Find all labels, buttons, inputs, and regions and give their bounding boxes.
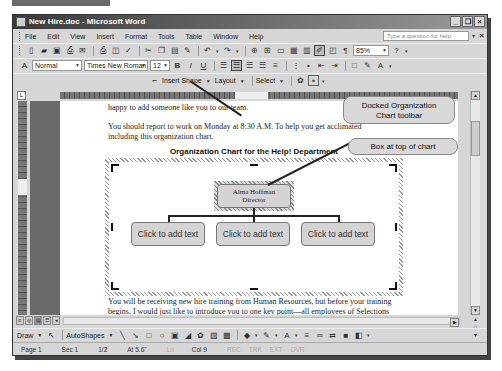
crop-handle[interactable] <box>389 282 397 290</box>
org-box-subordinate[interactable]: Click to add text <box>301 222 375 246</box>
rectangle-icon[interactable]: □ <box>143 330 154 341</box>
format-painter-icon[interactable]: ✎ <box>182 45 193 56</box>
redo-icon[interactable]: ↷ <box>222 45 233 56</box>
toolbar-options-icon[interactable]: ▾ <box>388 60 393 71</box>
toolbar-options-icon[interactable]: ▾ <box>404 45 409 56</box>
document-map-icon[interactable]: ◰ <box>327 45 338 56</box>
picture-icon[interactable]: ▩ <box>221 330 232 341</box>
scroll-up-button[interactable]: ▲ <box>471 91 480 100</box>
chevron-down-icon[interactable]: ▾ <box>294 330 299 341</box>
menu-help[interactable]: Help <box>249 33 263 40</box>
reading-view-button[interactable]: ◂ <box>52 316 60 325</box>
dash-style-icon[interactable]: ═ <box>314 330 325 341</box>
menu-tools[interactable]: Tools <box>158 33 174 40</box>
org-chart-canvas[interactable]: Alma Hoffman Director Click to add text … <box>105 158 403 296</box>
bold-icon[interactable]: B <box>172 60 183 71</box>
clip-art-icon[interactable]: ▨ <box>208 330 219 341</box>
arrow-style-icon[interactable]: ⇄ <box>327 330 338 341</box>
style-select[interactable]: Normal▼ <box>32 60 82 71</box>
crop-handle[interactable] <box>389 164 397 172</box>
shadow-style-icon[interactable]: ■ <box>340 330 351 341</box>
line-color-icon[interactable]: ✎ <box>261 330 272 341</box>
org-box-top[interactable]: Alma Hoffman Director <box>217 184 291 208</box>
text-box-icon[interactable]: ▣ <box>169 330 180 341</box>
spelling-icon[interactable]: ✓ <box>123 45 134 56</box>
borders-icon[interactable]: □ <box>349 60 360 71</box>
bullets-icon[interactable]: • <box>303 60 314 71</box>
vertical-scrollbar[interactable]: ▲ ▼ <box>470 91 480 315</box>
copy-icon[interactable]: ❐ <box>156 45 167 56</box>
menu-window[interactable]: Window <box>213 33 238 40</box>
permission-icon[interactable]: ⎙ <box>64 45 75 56</box>
insert-excel-icon[interactable]: ▦ <box>288 45 299 56</box>
open-folder-icon[interactable]: ▰ <box>38 45 49 56</box>
print-icon[interactable]: ⎙ <box>97 45 108 56</box>
zoom-select[interactable]: 85%▼ <box>353 45 389 56</box>
line-style-icon[interactable]: ≡ <box>301 330 312 341</box>
outline-view-button[interactable]: ☰ <box>43 316 51 325</box>
document-page[interactable]: happy to add someone like you to our tea… <box>60 101 458 315</box>
align-right-icon[interactable]: ☰ <box>244 60 255 71</box>
menu-edit[interactable]: Edit <box>47 33 59 40</box>
fill-color-icon[interactable]: ◆ <box>241 330 252 341</box>
drawing-icon[interactable]: ✐ <box>314 45 325 56</box>
crop-handle[interactable] <box>111 164 119 172</box>
tab-selector[interactable]: L <box>17 91 26 100</box>
vertical-ruler[interactable] <box>18 101 27 315</box>
numbering-icon[interactable]: ⋮ <box>290 60 301 71</box>
toolbar-grip[interactable] <box>19 46 22 55</box>
autoformat-icon[interactable]: ✿ <box>295 75 306 86</box>
email-icon[interactable]: ✉ <box>77 45 88 56</box>
align-center-icon[interactable]: ☰ <box>231 60 242 71</box>
restore-button[interactable]: ❐ <box>462 16 473 27</box>
font-select[interactable]: Times New Roman▼ <box>84 60 148 71</box>
redo-dropdown-icon[interactable]: ▾ <box>235 45 240 56</box>
menu-format[interactable]: Format <box>125 33 147 40</box>
justify-icon[interactable]: ☰ <box>257 60 268 71</box>
line-icon[interactable]: ╲ <box>117 330 128 341</box>
arrow-icon[interactable]: ↘ <box>130 330 141 341</box>
crop-handle[interactable] <box>250 164 258 166</box>
line-spacing-icon[interactable]: ≡ <box>270 60 281 71</box>
text-wrapping-icon[interactable]: ▪ <box>308 75 319 86</box>
status-ext[interactable]: EXT <box>270 346 283 353</box>
new-document-icon[interactable]: ▯ <box>25 45 36 56</box>
normal-view-button[interactable]: ≡ <box>16 316 24 325</box>
web-layout-view-button[interactable]: ◎ <box>25 316 33 325</box>
minimize-button[interactable]: _ <box>450 16 461 27</box>
3d-style-icon[interactable]: ◧ <box>353 330 364 341</box>
columns-icon[interactable]: ▥ <box>301 45 312 56</box>
draw-menu-button[interactable]: Draw <box>17 332 33 339</box>
print-layout-view-button[interactable]: ▤ <box>34 316 42 325</box>
font-color-icon[interactable]: A <box>281 330 292 341</box>
crop-handle[interactable] <box>111 223 113 231</box>
chevron-down-icon[interactable]: ▾ <box>274 330 279 341</box>
underline-icon[interactable]: U <box>198 60 209 71</box>
show-hide-icon[interactable]: ¶ <box>340 45 351 56</box>
layout-button[interactable]: Layout <box>215 77 236 84</box>
tables-borders-icon[interactable]: ⊞ <box>262 45 273 56</box>
font-size-select[interactable]: 12▼ <box>150 60 170 71</box>
cut-icon[interactable]: ✂ <box>143 45 154 56</box>
autoshapes-menu-button[interactable]: AutoShapes <box>66 332 104 339</box>
help-icon[interactable]: ? <box>391 45 402 56</box>
paste-icon[interactable]: ▤ <box>169 45 180 56</box>
crop-handle[interactable] <box>250 288 258 290</box>
toolbar-options-icon[interactable]: ▾ <box>366 330 371 341</box>
crop-handle[interactable] <box>395 223 397 231</box>
crop-handle[interactable] <box>111 282 119 290</box>
help-dropdown-arrow-icon[interactable]: ▾ <box>472 32 475 39</box>
align-left-icon[interactable]: ☰ <box>218 60 229 71</box>
previous-page-icon[interactable]: ▴ <box>470 315 480 323</box>
close-button[interactable]: × <box>474 16 485 27</box>
close-document-button[interactable]: × <box>479 31 484 40</box>
status-trk[interactable]: TRK <box>249 346 262 353</box>
toolbar-grip[interactable] <box>19 32 22 41</box>
chevron-down-icon[interactable]: ▾ <box>254 330 259 341</box>
status-ovr[interactable]: OVR <box>290 346 304 353</box>
save-icon[interactable]: ▣ <box>51 45 62 56</box>
help-question-input[interactable]: Type a question for help <box>383 31 469 41</box>
oval-icon[interactable]: ○ <box>156 330 167 341</box>
scroll-right-button[interactable]: ▶ <box>450 318 459 327</box>
menu-view[interactable]: View <box>70 33 85 40</box>
